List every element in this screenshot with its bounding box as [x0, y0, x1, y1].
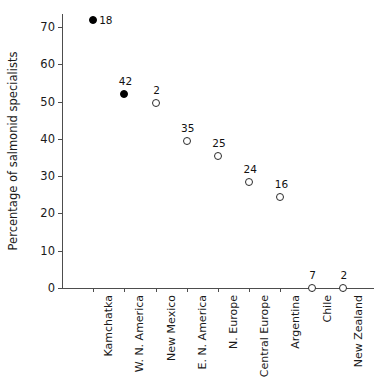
- data-point[interactable]: [339, 284, 347, 292]
- data-point[interactable]: [183, 137, 191, 145]
- y-tick-mark: [58, 176, 62, 177]
- y-tick-mark: [58, 102, 62, 103]
- x-category-label: Chile: [320, 292, 336, 378]
- y-tick-mark: [58, 213, 62, 214]
- y-tick-mark: [58, 251, 62, 252]
- data-point[interactable]: [214, 152, 222, 160]
- x-category-label: Central Europe: [257, 292, 273, 378]
- y-tick-mark: [58, 27, 62, 28]
- y-tick-mark: [58, 139, 62, 140]
- y-tick-mark: [58, 288, 62, 289]
- scatter-chart-figure: Percentage of salmonid specialists 01020…: [0, 0, 381, 378]
- x-category-label: New Zealand: [351, 292, 367, 378]
- y-tick-label: 70: [40, 20, 55, 34]
- y-tick-label: 0: [48, 281, 55, 295]
- x-category-label: Kamchatka: [101, 292, 117, 378]
- data-point[interactable]: [308, 284, 316, 292]
- x-category-label: W. N. America: [132, 292, 148, 378]
- x-category-label: E. N. America: [195, 292, 211, 378]
- data-point-label: 2: [153, 84, 160, 96]
- plot-area: 010203040506070 184223525241672: [62, 14, 374, 288]
- y-tick-label: 10: [40, 244, 55, 258]
- x-tick-mark: [280, 288, 281, 292]
- data-point-label: 18: [99, 14, 112, 26]
- data-point[interactable]: [276, 193, 284, 201]
- y-tick-label: 30: [40, 169, 55, 183]
- data-point-label: 2: [340, 269, 347, 281]
- data-point-label: 35: [181, 122, 194, 134]
- y-tick-mark: [58, 64, 62, 65]
- x-tick-mark: [249, 288, 250, 292]
- x-tick-mark: [124, 288, 125, 292]
- data-point-label: 25: [212, 137, 225, 149]
- data-point-label: 42: [119, 75, 132, 87]
- data-point-label: 24: [244, 163, 257, 175]
- x-tick-mark: [93, 288, 94, 292]
- data-point-label: 16: [275, 178, 288, 190]
- y-axis-title: Percentage of salmonid specialists: [2, 14, 24, 288]
- data-point[interactable]: [245, 178, 253, 186]
- x-tick-mark: [187, 288, 188, 292]
- y-tick-label: 50: [40, 95, 55, 109]
- x-category-label: New Mexico: [164, 292, 180, 378]
- x-tick-mark: [218, 288, 219, 292]
- x-category-label: N. Europe: [226, 292, 242, 378]
- data-point[interactable]: [89, 16, 97, 24]
- x-category-label: Argentina: [288, 292, 304, 378]
- y-tick-label: 60: [40, 57, 55, 71]
- x-tick-mark: [156, 288, 157, 292]
- y-tick-label: 20: [40, 206, 55, 220]
- data-point[interactable]: [120, 90, 128, 98]
- data-point[interactable]: [152, 99, 160, 107]
- data-point-label: 7: [309, 269, 316, 281]
- y-axis-spine: [62, 14, 63, 288]
- y-tick-label: 40: [40, 132, 55, 146]
